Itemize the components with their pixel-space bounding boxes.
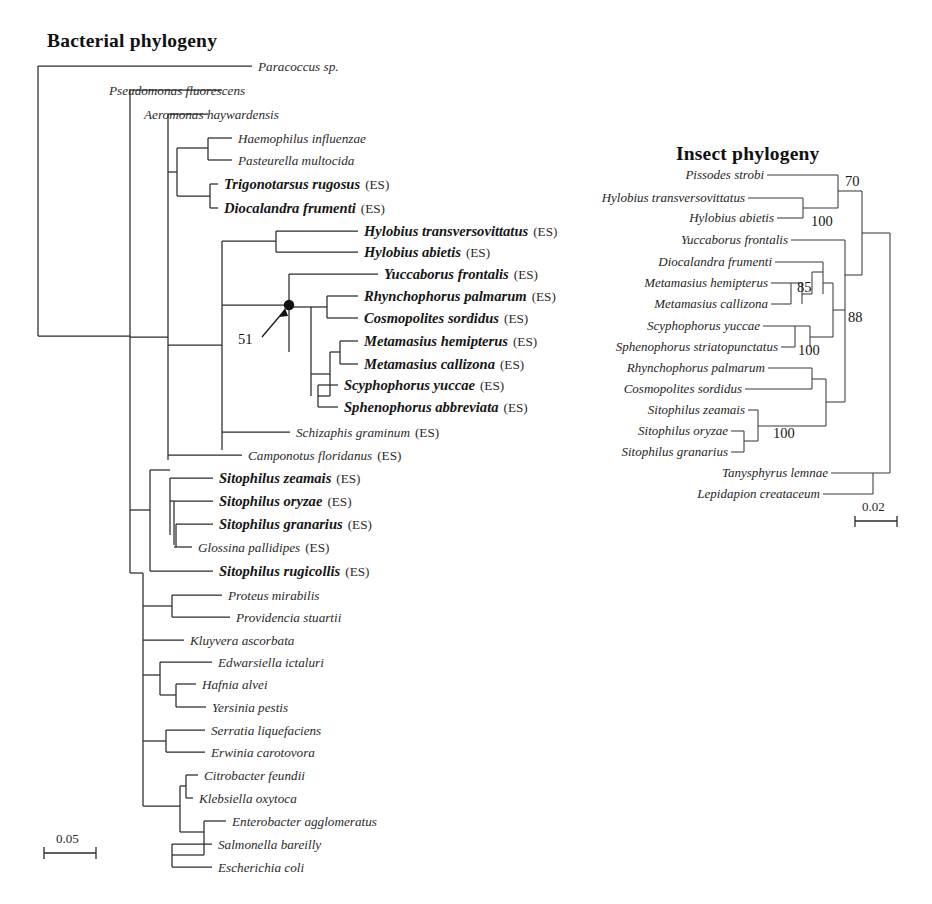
insect-scale-label: 0.02 [862,499,885,514]
taxon-name: Scyphophorus yuccae [344,377,475,393]
bacterial-taxon-label: Yersinia pestis [212,700,288,715]
insect-taxon-label: Sitophilus zeamais [648,402,745,417]
bacterial-taxon-row: Enterobacter agglomeratus [231,814,377,829]
bacterial-taxon-row: Aeromonas haywardensis [143,107,279,122]
taxon-name: Pasteurella multocida [237,153,355,168]
bacterial-taxon-row: Camponotus floridanus(ES) [248,448,401,463]
es-tag: (ES) [327,494,351,509]
bacterial-panel-title: Bacterial phylogeny [47,30,217,51]
bacterial-taxon-row: Scyphophorus yuccae(ES) [344,377,504,393]
bacterial-taxon-row: Diocalandra frumenti(ES) [223,200,385,216]
insect-panel-title: Insect phylogeny [676,143,820,164]
bacterial-taxon-row: Rhynchophorus palmarum(ES) [363,288,556,304]
insect-taxon-label: Metamasius callizona [653,296,768,311]
bacterial-taxon-row: Edwarsiella ictaluri [217,655,324,670]
taxon-name: Aeromonas haywardensis [143,107,279,122]
bacterial-taxon-row: Hylobius transversovittatus(ES) [363,223,557,239]
bacterial-taxon-label: Haemophilus influenzae [237,131,366,146]
bacterial-taxon-row: Serratia liquefaciens [211,723,321,738]
bacterial-taxon-label: Proteus mirabilis [227,588,319,603]
bacterial-taxon-row: Haemophilus influenzae [237,131,366,146]
bacterial-taxon-label: Scyphophorus yuccae(ES) [344,377,504,393]
es-tag: (ES) [466,245,490,260]
bacterial-taxon-label: Sitophilus zeamais(ES) [219,470,361,486]
taxon-name: Sitophilus zeamais [219,470,332,486]
taxon-name: Providencia stuartii [235,610,342,625]
insect-taxon-label: Sphenophorus striatopunctatus [616,339,778,354]
taxon-name: Sphenophorus abbreviata [344,399,498,415]
bacterial-taxon-label: Schizaphis graminum(ES) [296,425,439,440]
bacterial-taxon-row: Sitophilus zeamais(ES) [219,470,361,486]
taxon-name: Serratia liquefaciens [211,723,321,738]
bacterial-taxon-row: Yuccaborus frontalis(ES) [384,266,538,282]
taxon-name: Sitophilus rugicollis [219,563,341,579]
insect-panel: Insect phylogeny [601,143,897,527]
bacterial-taxon-row: Erwinia carotovora [210,745,315,760]
bacterial-scale-bar: 0.05 [44,831,96,859]
taxon-name: Sitophilus granarius [219,516,343,532]
bacterial-taxon-label: Enterobacter agglomeratus [231,814,377,829]
es-tag: (ES) [348,517,372,532]
bacterial-taxon-label: Kluyvera ascorbata [189,633,295,648]
es-tag: (ES) [500,357,524,372]
bacterial-taxon-row: Metamasius hemipterus(ES) [363,333,537,349]
bacterial-taxon-label: Sphenophorus abbreviata(ES) [344,399,528,415]
bacterial-taxon-label: Klebsiella oxytoca [198,791,297,806]
taxon-name: Rhynchophorus palmarum [363,288,527,304]
es-tag: (ES) [361,201,385,216]
bacterial-taxon-label: Salmonella bareilly [218,837,321,852]
taxon-name: Yuccaborus frontalis [384,266,509,282]
bacterial-taxon-label: Hylobius transversovittatus(ES) [363,223,557,239]
bacterial-taxon-row: Glossina pallidipes(ES) [198,540,329,555]
insect-taxon-label: Pissodes strobi [684,167,764,182]
phylogeny-figure: Bacterial phylogeny [0,0,932,904]
insect-taxon-label: Hylobius abietis [688,210,774,225]
taxon-name: Schizaphis graminum [296,425,410,440]
bacterial-panel: Bacterial phylogeny [38,30,557,875]
bacterial-taxon-row: Providencia stuartii [235,610,342,625]
es-tag: (ES) [480,378,504,393]
bacterial-taxon-label: Camponotus floridanus(ES) [248,448,401,463]
bootstrap-node-dot [284,300,294,310]
bacterial-taxon-label: Paracoccus sp. [257,59,339,74]
bacterial-taxon-label: Sitophilus oryzae(ES) [219,493,352,509]
insect-taxon-label: Tanysphyrus lemnae [722,465,828,480]
insect-support-100-sphenophorus: 100 [798,342,820,358]
insect-taxon-label: Metamasius hemipterus [643,275,768,290]
bacterial-taxon-label: Rhynchophorus palmarum(ES) [363,288,556,304]
bacterial-taxon-row: Escherichia coli [217,860,304,875]
phylogeny-svg: Bacterial phylogeny [0,0,932,904]
insect-taxon-label: Lepidapion creataceum [696,486,820,501]
bacterial-taxon-row: Hylobius abietis(ES) [363,244,490,260]
bacterial-taxon-row: Sitophilus granarius(ES) [219,516,372,532]
taxon-name: Yersinia pestis [212,700,288,715]
bacterial-taxon-row: Citrobacter feundii [204,768,305,783]
insect-support-100-sitophilus: 100 [773,425,795,441]
bacterial-taxon-row: Pasteurella multocida [237,153,355,168]
insect-support-88: 88 [848,309,863,325]
bacterial-taxon-label: Cosmopolites sordidus(ES) [364,310,528,326]
insect-support-85: 85 [797,279,812,295]
taxon-name: Camponotus floridanus [248,448,372,463]
es-tag: (ES) [513,334,537,349]
taxon-name: Hylobius transversovittatus [363,223,529,239]
bacterial-taxon-label: Providencia stuartii [235,610,342,625]
bacterial-taxon-row: Yersinia pestis [212,700,288,715]
taxon-name: Diocalandra frumenti [223,200,356,216]
bacterial-taxon-label: Erwinia carotovora [210,745,315,760]
taxon-name: Glossina pallidipes [198,540,300,555]
bacterial-taxon-label: Glossina pallidipes(ES) [198,540,329,555]
taxon-name: Enterobacter agglomeratus [231,814,377,829]
es-tag: (ES) [305,540,329,555]
taxon-name: Metamasius callizona [363,356,495,372]
taxon-name: Hafnia alvei [201,677,268,692]
bacterial-taxon-label: Hylobius abietis(ES) [363,244,490,260]
es-tag: (ES) [533,224,557,239]
taxon-name: Hylobius abietis [363,244,461,260]
insect-taxon-label: Diocalandra frumenti [657,254,772,269]
es-tag: (ES) [532,289,556,304]
bacterial-taxon-row: Klebsiella oxytoca [198,791,297,806]
bacterial-taxon-label: Escherichia coli [217,860,304,875]
bacterial-taxon-row: Paracoccus sp. [257,59,339,74]
bacterial-taxon-label: Sitophilus rugicollis(ES) [219,563,369,579]
